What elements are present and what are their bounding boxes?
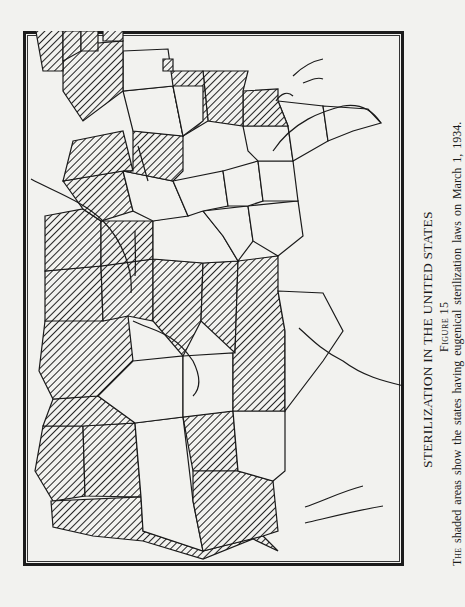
state-connecticut: Connecticut (shaded) (103, 31, 123, 41)
state-tennessee: Tennessee (223, 161, 263, 206)
state-oregon: Oregon (shaded) (83, 423, 141, 497)
state-minnesota: Minnesota (shaded) (45, 209, 101, 271)
state-louisiana: Louisiana (248, 201, 303, 256)
figure-title: STERILIZATION IN THE UNITED STATES (420, 211, 436, 468)
figure-caption: STERILIZATION IN THE UNITED STATES Figur… (408, 0, 465, 607)
state-oklahoma: Oklahoma (shaded) (233, 256, 285, 411)
caption-lead-word: The (450, 548, 464, 566)
state-washington: Washington (shaded) (35, 426, 85, 501)
state-new-mexico: New Mexico (233, 411, 285, 481)
state-maine: Maine (shaded) (35, 31, 63, 71)
state-mississippi: Mississippi (258, 161, 298, 201)
us-sterilization-map: Washington (shaded)Oregon (shaded)Califo… (23, 31, 404, 566)
state-alabama: Alabama (243, 126, 293, 161)
state-texas: Texas (278, 291, 343, 411)
state-vermont: Vermont (shaded) (81, 31, 98, 51)
state-delaware: Delaware (shaded) (163, 59, 173, 71)
state-north-dakota: North Dakota (shaded) (45, 266, 103, 321)
state-kansas: Kansas (shaded) (201, 261, 238, 353)
state-nebraska: Nebraska (shaded) (153, 259, 203, 356)
book-page: Washington (shaded)Oregon (shaded)Califo… (0, 0, 465, 607)
caption-body: shaded areas show the states having euge… (450, 122, 464, 548)
state-north-carolina: North Carolina (shaded) (203, 71, 248, 126)
caribbean-islands (276, 59, 323, 101)
baja-coast (305, 486, 383, 523)
state-colorado: Colorado (183, 353, 233, 417)
state-utah: Utah (shaded) (183, 411, 238, 471)
state-florida: Florida (323, 106, 381, 141)
state-illinois: Illinois (123, 171, 188, 221)
state-south-dakota: South Dakota (shaded) (101, 259, 153, 321)
figure-description: The shaded areas show the states having … (450, 122, 465, 566)
